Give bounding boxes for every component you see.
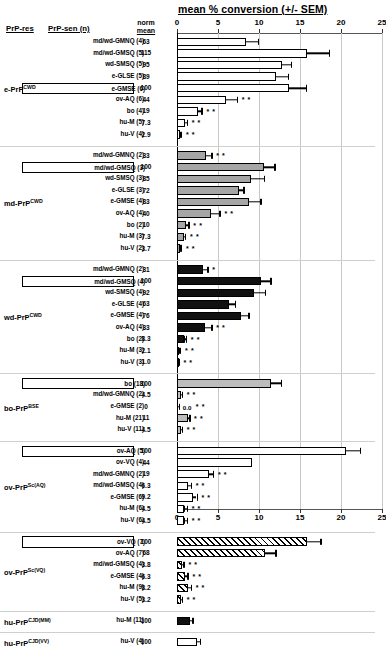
column-header-prp-res: PrP-res	[6, 24, 34, 33]
prp-sen-label: ov-AQ (4)	[24, 323, 144, 330]
error-bar-cap	[183, 234, 184, 240]
error-bar-cap	[182, 427, 183, 433]
prp-sen-label: md/wd-GMSQ (3)	[25, 164, 145, 171]
chart-row: md/wd-GMNQ (2)33* *	[0, 150, 375, 162]
chart-row: ov-AQ (6)44* *	[0, 95, 375, 107]
norm-mean-value: 7.3	[131, 233, 161, 240]
prp-sen-label: e-GLSE (3)	[24, 186, 144, 193]
bar	[177, 493, 193, 501]
prp-sen-label: hu-M (3)	[24, 232, 144, 239]
error-bar-cap	[185, 234, 186, 240]
chart-row: e-GMSE (4)76	[0, 311, 375, 323]
tick-top-0	[177, 29, 178, 33]
chart-row: e-GLSE (4)63	[0, 299, 375, 311]
bar	[177, 72, 276, 80]
prp-sen-label-wrap: hu-M (5)	[22, 118, 132, 127]
bar	[177, 323, 205, 331]
error-bar-cap	[265, 290, 266, 296]
significance-marker: * *	[183, 359, 192, 366]
bar-container	[177, 175, 382, 183]
error-bar-cap	[180, 392, 181, 398]
norm-mean-value: 100	[131, 84, 161, 91]
bar	[177, 61, 282, 69]
prp-res-superscript: BSE	[28, 403, 39, 409]
significance-marker: * *	[192, 505, 201, 512]
significance-marker: * *	[218, 471, 227, 478]
prp-sen-label-wrap: e-GMSE (6)	[22, 492, 132, 501]
tick-top-25	[382, 29, 383, 33]
prp-sen-label-wrap: bo (18)	[22, 378, 134, 389]
error-bar-cap	[260, 199, 261, 205]
norm-mean-value: 100	[131, 538, 161, 545]
chart-row: hu-M (6)4.5* *	[0, 504, 375, 516]
chart-row: bo (4)19* *	[0, 106, 375, 118]
bar-container	[177, 277, 382, 285]
group-label: bo-PrPBSE	[4, 403, 39, 413]
prp-res-superscript: CWD	[23, 84, 35, 90]
prp-sen-label-wrap: md/wd-GMNQ (2)	[22, 264, 132, 273]
prp-sen-label: e-GMSE (2)	[24, 402, 144, 409]
chart-row: md/wd-GMNQ (2)4.5* *	[0, 390, 375, 402]
norm-mean-value: 4.5	[131, 505, 161, 512]
chart-row: bo (18)100	[0, 378, 375, 390]
prp-res-label: bo-PrP	[4, 404, 28, 413]
prp-sen-label: e-GMSE (4)	[24, 311, 144, 318]
significance-marker: * *	[187, 596, 196, 603]
error-bar	[306, 541, 321, 542]
chart-row: ov-AQ (5)100	[0, 446, 375, 458]
error-bar	[264, 553, 275, 554]
chart-row: ov-VQ (7)100	[0, 536, 375, 548]
bar-container: * *	[177, 482, 382, 490]
norm-mean-value: 100	[131, 617, 161, 624]
prp-res-superscript: Sc(AQ)	[28, 482, 46, 488]
prp-sen-label-wrap: ov-AQ (4)	[22, 322, 132, 331]
chart-row: ov-VQ (4)44	[0, 457, 375, 469]
error-bar-cap	[181, 131, 182, 137]
prp-sen-label: hu-M (3)	[24, 346, 144, 353]
error-bar-cap	[180, 427, 181, 433]
norm-mean-value: 3.2	[131, 596, 161, 603]
prp-sen-label-wrap: ov-AQ (5)	[22, 446, 134, 457]
bar-container	[177, 458, 382, 466]
norm-mean-value: 3.8	[131, 561, 161, 568]
chart-row: md/wd-GMSQ (4)3.8* *	[0, 560, 375, 572]
bar-container	[177, 447, 382, 455]
prp-sen-label-wrap: md/wd-GMSQ (3)	[22, 162, 134, 173]
prp-res-label: md-PrP	[4, 200, 30, 209]
error-bar-cap	[258, 39, 259, 45]
chart-row: md/wd-GMSQ (3)100	[0, 162, 375, 174]
prp-sen-label: hu-M (9)	[24, 583, 144, 590]
bar	[177, 186, 239, 194]
prp-sen-label: hu-V (2)	[24, 244, 144, 251]
column-header-norm-mean: norm mean	[131, 19, 161, 35]
norm-mean-value: 19	[131, 107, 161, 114]
norm-mean-value: 85	[131, 175, 161, 182]
norm-mean-value: 2.1	[131, 347, 161, 354]
prp-sen-label-wrap: ov-VQ (4)	[22, 457, 132, 466]
chart-row: hu-M (11)100	[0, 616, 375, 628]
chart-row: bo (2)8.3* *	[0, 334, 375, 346]
norm-mean-value: 72	[131, 187, 161, 194]
top-axis-line	[177, 33, 383, 34]
error-bar	[281, 64, 291, 65]
bar	[177, 447, 346, 455]
bar-container	[177, 163, 382, 171]
prp-sen-label: bo (2)	[24, 335, 144, 342]
prp-sen-label-wrap: hu-M (3)	[22, 346, 132, 355]
group-label: ov-PrPSc(AQ)	[4, 482, 45, 492]
group-label: ov-PrPSc(VQ)	[4, 567, 45, 577]
error-bar-cap	[274, 164, 275, 170]
prp-sen-label: hu-V (11)	[24, 425, 144, 432]
prp-sen-label-wrap: md/wd-GMNQ (2)	[22, 390, 132, 399]
prp-sen-label-wrap: hu-V (5)	[22, 594, 132, 603]
significance-marker: * *	[216, 324, 225, 331]
significance-marker: * *	[192, 573, 201, 580]
error-bar	[250, 178, 264, 179]
bar-container	[177, 617, 382, 625]
bar	[177, 151, 206, 159]
norm-mean-value: 7.3	[131, 119, 161, 126]
prp-sen-label-wrap: hu-V (6)	[22, 515, 132, 524]
group-label: hu-PrPCJD(MM)	[4, 617, 51, 627]
chart-row: md/wd-GMNQ (2)19* *	[0, 469, 375, 481]
